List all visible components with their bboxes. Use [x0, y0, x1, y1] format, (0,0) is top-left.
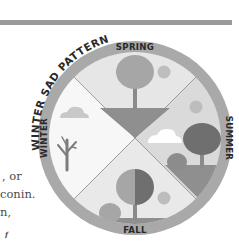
label-spring: SPRING: [116, 42, 154, 52]
winter-sad-pattern-diagram: SPRING SUMMER FALL WINTER WINTER SAD PAT…: [0, 0, 239, 246]
spring-sun-icon: [158, 66, 171, 79]
spring-tree-icon: [116, 55, 154, 89]
summer-tree-icon: [183, 123, 221, 155]
fall-sun-icon: [158, 192, 171, 205]
summer-bush-icon: [167, 153, 187, 171]
label-summer: SUMMER: [224, 116, 234, 161]
label-fall: FALL: [123, 225, 147, 235]
summer-sun-icon: [190, 101, 203, 114]
